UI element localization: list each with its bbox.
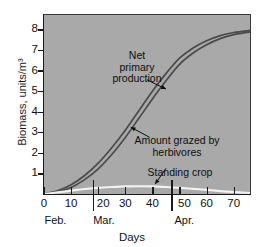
x-tick-label-60: 60 (196, 198, 218, 210)
x-axis-title: Days (0, 231, 264, 243)
annotation-amount-grazed-by-herbivores: Amount grazed byherbivores (122, 135, 232, 158)
x-tick-label-10: 10 (60, 198, 82, 210)
y-tick-label-3: 3 (24, 126, 38, 138)
x-tick-label-70: 70 (223, 198, 245, 210)
x-axis-tick-labels: 010203040506070 (0, 198, 264, 214)
month-label-apr: Apr. (175, 215, 195, 226)
plot-area: Netprimaryproduction Amount grazed byher… (43, 14, 251, 195)
annotation-net-primary-production: Netprimaryproduction (104, 50, 170, 85)
x-tick-label-30: 30 (114, 198, 136, 210)
series-line-standing-crop (44, 186, 250, 194)
annotation-standing-crop: Standing crop (138, 167, 222, 179)
y-tick-label-1: 1 (24, 167, 38, 179)
y-tick-label-4: 4 (24, 106, 38, 118)
y-tick-label-6: 6 (24, 65, 38, 77)
y-tick-label-5: 5 (24, 85, 38, 97)
x-tick-label-50: 50 (174, 198, 196, 210)
x-tick-label-20: 20 (92, 198, 114, 210)
month-label-feb: Feb. (44, 215, 66, 226)
y-tick-label-2: 2 (24, 147, 38, 159)
month-label-mar: Mar. (93, 215, 114, 226)
x-tick-label-0: 0 (33, 198, 55, 210)
y-tick-label-7: 7 (24, 44, 38, 56)
x-tick-label-40: 40 (141, 198, 163, 210)
month-band-labels: Feb.Mar.Apr. (0, 215, 264, 230)
biomass-chart-figure: Biomass, units/m³ 12345678 Netprimarypro… (0, 0, 264, 247)
y-tick-label-8: 8 (24, 23, 38, 35)
